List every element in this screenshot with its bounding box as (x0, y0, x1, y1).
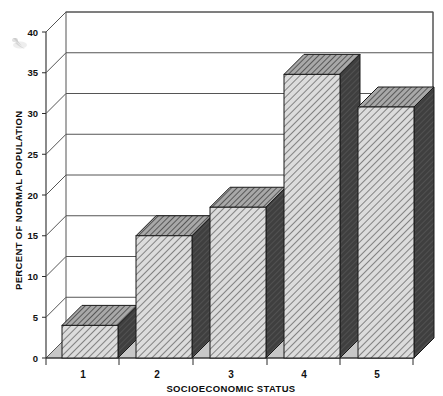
bar-3-front (210, 207, 266, 358)
y-tick-label-30: 30 (27, 108, 38, 119)
bar-3-side (266, 187, 286, 358)
y-axis-title: PERCENT OF NORMAL POPULATION (13, 111, 24, 290)
x-axis-tick-labels: 1 2 3 4 5 (80, 369, 380, 380)
x-tick-label-4: 4 (301, 369, 307, 380)
bar-2-side (192, 216, 212, 358)
y-axis-tick-labels: 40 35 30 25 20 15 10 5 0 (27, 27, 38, 364)
scan-smudge-icon (12, 38, 27, 49)
x-axis-title: SOCIOECONOMIC STATUS (166, 383, 295, 394)
chart-canvas: 40 35 30 25 20 15 10 5 0 PERCENT OF NORM… (0, 0, 443, 396)
y-tick-label-0: 0 (33, 353, 38, 364)
bar-5-front (358, 107, 414, 358)
bar-4-side (340, 54, 360, 358)
x-tick-label-2: 2 (154, 369, 160, 380)
bar-chart-figure: 40 35 30 25 20 15 10 5 0 PERCENT OF NORM… (0, 0, 443, 396)
x-axis-ticks (46, 358, 413, 365)
y-tick-label-15: 15 (27, 230, 38, 241)
x-tick-label-1: 1 (80, 369, 86, 380)
y-tick-label-5: 5 (33, 312, 39, 323)
bar-2-front (136, 236, 192, 358)
bar-1-front (62, 325, 118, 358)
bar-4-front (284, 74, 340, 358)
x-tick-label-5: 5 (374, 369, 380, 380)
bar-5[interactable] (358, 87, 434, 358)
y-tick-label-25: 25 (27, 149, 38, 160)
y-axis-ticks (42, 32, 46, 358)
y-tick-label-10: 10 (27, 271, 38, 282)
bar-5-side (414, 87, 434, 358)
x-tick-label-3: 3 (228, 369, 234, 380)
bar-4[interactable] (284, 54, 360, 358)
bar-2[interactable] (136, 216, 212, 358)
y-tick-label-35: 35 (27, 67, 38, 78)
y-tick-label-40: 40 (27, 27, 38, 38)
bar-3[interactable] (210, 187, 286, 358)
y-tick-label-20: 20 (27, 190, 38, 201)
